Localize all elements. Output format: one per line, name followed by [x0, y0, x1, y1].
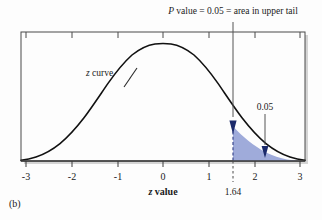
xtick-label-neg1: -1	[114, 171, 122, 182]
xtick-label-3: 3	[298, 171, 303, 182]
xtick-label-neg3: -3	[22, 171, 30, 182]
xtick-label-0: 0	[161, 171, 166, 182]
normal-distribution-chart: -3 -2 -1 0 1 2 3 z value 1.64 0.05 P val…	[0, 0, 322, 220]
critical-value-label: 1.64	[225, 187, 242, 197]
xtick-label-neg2: -2	[68, 171, 76, 182]
z-curve-label: z curve	[85, 68, 113, 78]
x-axis-title: z value	[147, 186, 178, 197]
xtick-label-1: 1	[207, 171, 212, 182]
figure-panel-b: -3 -2 -1 0 1 2 3 z value 1.64 0.05 P val…	[0, 0, 322, 220]
x-axis-title-rest: value	[152, 186, 178, 197]
xtick-label-2: 2	[253, 171, 258, 182]
panel-label: (b)	[9, 198, 21, 210]
tail-area-label: 0.05	[257, 102, 274, 112]
z-curve-label-rest: curve	[90, 68, 113, 78]
annotation-title: P value = 0.05 = area in upper tail	[167, 6, 298, 16]
plot-frame	[21, 32, 305, 161]
annotation-title-rest: value = 0.05 = area in upper tail	[174, 6, 298, 16]
